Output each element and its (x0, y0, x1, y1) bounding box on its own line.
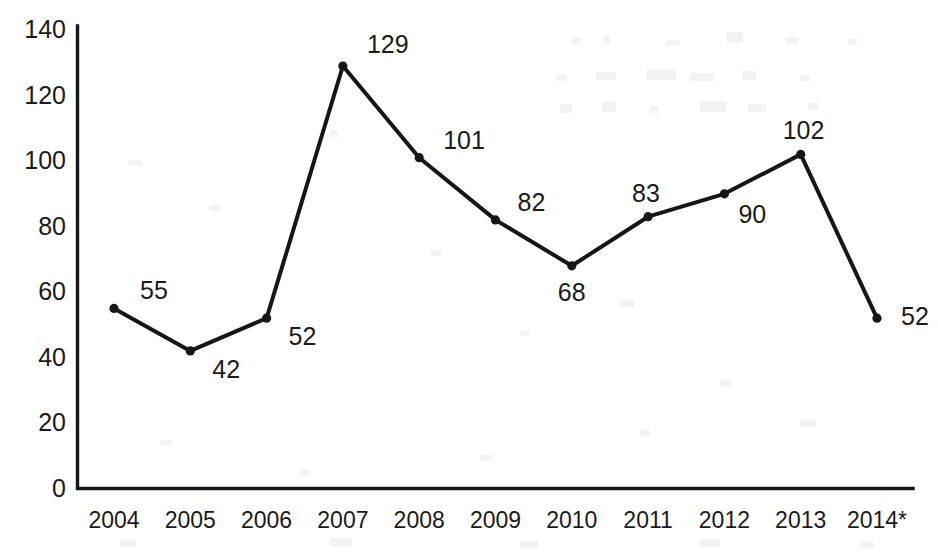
data-point-marker (338, 61, 347, 70)
data-value-label: 52 (901, 304, 929, 329)
y-axis-tick-label: 80 (38, 214, 66, 239)
data-value-label: 68 (558, 280, 586, 305)
data-point-marker (567, 261, 576, 270)
y-axis-tick-label: 120 (24, 83, 66, 108)
data-value-label: 102 (783, 118, 825, 143)
data-value-label: 52 (289, 324, 317, 349)
y-axis-tick-label: 60 (38, 279, 66, 304)
data-value-label: 82 (518, 190, 546, 215)
data-point-marker (415, 153, 424, 162)
data-point-marker (262, 314, 271, 323)
data-point-marker (796, 150, 805, 159)
y-axis-tick-label: 20 (38, 410, 66, 435)
data-value-label: 42 (212, 357, 240, 382)
axis-lines (78, 26, 914, 489)
data-value-label: 129 (367, 32, 409, 57)
data-value-label: 55 (140, 278, 168, 303)
x-axis-tick-label: 2014* (827, 509, 927, 532)
data-point-marker (109, 304, 118, 313)
data-point-marker (186, 346, 195, 355)
line-chart: 020406080100120140 200420052006200720082… (0, 0, 938, 555)
y-axis-tick-label: 140 (24, 17, 66, 42)
data-point-marker (644, 212, 653, 221)
y-axis-tick-label: 40 (38, 345, 66, 370)
data-point-marker (491, 215, 500, 224)
data-value-label: 83 (632, 181, 660, 206)
y-axis-tick-label: 100 (24, 148, 66, 173)
data-point-marker (720, 189, 729, 198)
data-value-label: 90 (738, 202, 766, 227)
data-value-label: 101 (443, 128, 485, 153)
y-axis-tick-label: 0 (52, 476, 66, 501)
data-point-marker (872, 314, 881, 323)
